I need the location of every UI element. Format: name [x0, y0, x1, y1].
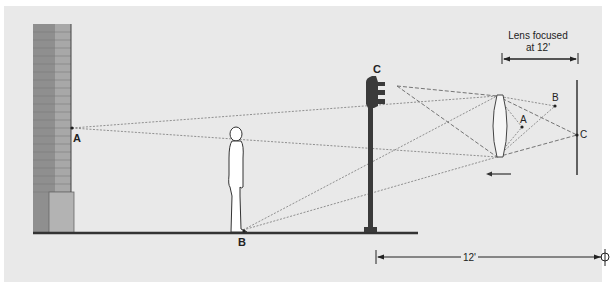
wall-point-a [70, 126, 73, 129]
focus-dimension-arrow [502, 53, 578, 64]
label-wall-a: A [73, 133, 81, 144]
image-point-c [575, 133, 578, 136]
focus-label-line2: at 12' [497, 42, 579, 54]
traffic-light-rays [397, 86, 577, 157]
distance-label: 12' [461, 252, 478, 263]
lens [493, 95, 507, 157]
image-point-b [553, 104, 556, 107]
distance-dimension-arrow [376, 249, 609, 266]
person-figure [229, 127, 247, 232]
image-point-a [520, 125, 523, 128]
focus-label-line1: Lens focused [497, 30, 579, 42]
lens-movement-arrow [486, 172, 511, 177]
label-image-a: A [520, 115, 527, 125]
label-ground-b: B [238, 237, 246, 248]
label-traffic-light-c: C [373, 64, 381, 75]
focus-label: Lens focused at 12' [497, 30, 579, 54]
traffic-light [364, 76, 385, 232]
ground-point-b [242, 229, 245, 232]
brick-wall [33, 24, 74, 233]
label-image-c: C [580, 130, 587, 140]
label-image-b: B [552, 93, 559, 103]
light-rays [72, 96, 555, 230]
